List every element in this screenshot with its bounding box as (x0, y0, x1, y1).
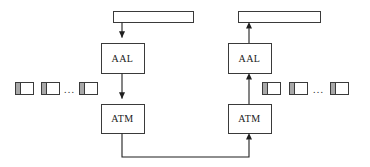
left-cell-2 (42, 83, 60, 95)
left-cell-1 (16, 83, 34, 95)
left-cell-3 (80, 83, 98, 95)
right-sdu-bar (239, 12, 321, 23)
left-atm-box (102, 105, 145, 134)
right-cell-1 (263, 83, 281, 95)
right-cell-2 (290, 83, 308, 95)
right-atm-box (229, 105, 272, 134)
right-cell-3 (331, 83, 349, 95)
left-sdu-bar (114, 12, 194, 23)
network-link-path (122, 134, 249, 158)
left-aal-box (102, 44, 145, 74)
right-aal-box (229, 44, 272, 74)
diagram-canvas: AAL ATM AAL ATM ... ... (0, 0, 370, 167)
left-cells-ellipsis: ... (64, 85, 75, 95)
right-cells-ellipsis: ... (313, 85, 324, 95)
